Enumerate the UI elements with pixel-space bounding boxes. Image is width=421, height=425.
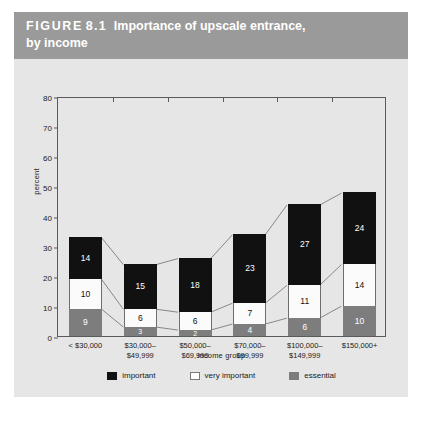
bar-segment-value: 14: [355, 281, 364, 290]
legend-swatch-essential: [289, 372, 299, 380]
bar-segment-important: 27: [288, 204, 321, 285]
bar-segment-important: 15: [124, 264, 157, 309]
bar-segment-value: 7: [248, 309, 253, 318]
x-tick-label-line: < $30,000: [69, 341, 103, 351]
bar-segment-essential: 9: [69, 309, 102, 336]
bar-segment-value: 6: [138, 314, 143, 323]
y-tick-mark: [54, 218, 58, 219]
y-axis-label: percent: [32, 152, 41, 212]
bar-segment-very-important: 6: [179, 312, 212, 330]
x-tick-label-line: $70,000–: [234, 341, 265, 351]
bar-segment-very-important: 14: [343, 264, 376, 306]
x-tick-mark: [332, 98, 333, 102]
stacked-bar: 27116: [288, 204, 321, 336]
bar-segment-essential: 6: [288, 318, 321, 336]
bar-segment-very-important: 6: [124, 309, 157, 327]
stacked-bar: 1563: [124, 264, 157, 336]
legend-item[interactable]: very important: [190, 371, 256, 380]
bar-segment-essential: 4: [233, 324, 266, 336]
bar-segment-value: 24: [355, 224, 364, 233]
figure-title-line-1: FIGURE8.1Importance of upscale entrance,: [26, 18, 396, 35]
bar-segment-essential: 3: [124, 327, 157, 336]
bar-segment-important: 23: [233, 234, 266, 303]
bar-segment-important: 14: [69, 237, 102, 279]
x-tick-mark: [113, 98, 114, 102]
y-tick-mark: [54, 188, 58, 189]
figure-number: 8.1: [83, 19, 107, 33]
x-tick-label: $150,000+: [342, 336, 378, 351]
stack-connector-lines: [58, 98, 385, 336]
bar-segment-important: 24: [343, 192, 376, 264]
bar-segment-value: 23: [245, 264, 254, 273]
legend-label: very important: [205, 371, 256, 380]
bar-segment-value: 10: [81, 290, 90, 299]
y-tick-mark: [54, 278, 58, 279]
stacked-bar: 241410: [343, 192, 376, 336]
bar-segment-value: 15: [136, 282, 145, 291]
stacked-bar: 14109: [69, 237, 102, 336]
y-tick-mark: [54, 308, 58, 309]
x-tick-label-line: $100,000–: [287, 341, 322, 351]
bar-segment-value: 11: [300, 297, 309, 306]
bar-segment-value: 14: [81, 254, 90, 263]
bar-segment-value: 9: [83, 318, 88, 327]
legend-swatch-very: [190, 372, 200, 380]
legend-label: important: [122, 371, 155, 380]
x-tick-label-line: $50,000–: [179, 341, 210, 351]
figure-title-text: Importance of upscale entrance,: [107, 19, 306, 33]
bar-segment-very-important: 11: [288, 285, 321, 318]
bar-segment-very-important: 10: [69, 279, 102, 309]
y-tick-mark: [54, 98, 58, 99]
x-tick-mark: [223, 98, 224, 102]
stacked-bar: 2374: [233, 234, 266, 336]
plot-frame: 01020304050607080 1410915631862237427116…: [57, 97, 386, 337]
x-tick-mark: [168, 98, 169, 102]
x-tick-label-line: $30,000–: [125, 341, 156, 351]
y-tick-mark: [54, 248, 58, 249]
plot-area: percent 01020304050607080 14109156318622…: [14, 59, 408, 397]
y-tick-mark: [54, 338, 58, 339]
bar-segment-value: 6: [193, 317, 198, 326]
figure-header: FIGURE8.1Importance of upscale entrance,…: [14, 12, 408, 59]
bar-segment-value: 6: [302, 323, 307, 332]
x-tick-label: < $30,000: [69, 336, 103, 351]
y-tick-mark: [54, 158, 58, 159]
figure-label-word: FIGURE: [26, 19, 83, 33]
bar-segment-very-important: 7: [233, 303, 266, 324]
bar-segment-value: 4: [248, 326, 253, 335]
figure-title-line-2: by income: [26, 35, 396, 52]
bar-segment-value: 18: [190, 281, 199, 290]
figure-box: FIGURE8.1Importance of upscale entrance,…: [14, 12, 408, 397]
legend-item[interactable]: essential: [289, 371, 336, 380]
x-tick-label-line: $150,000+: [342, 341, 378, 351]
x-tick-mark: [277, 98, 278, 102]
bar-segment-important: 18: [179, 258, 212, 312]
bar-segment-value: 10: [355, 317, 364, 326]
legend-item[interactable]: important: [107, 371, 155, 380]
y-tick-mark: [54, 128, 58, 129]
stacked-bar: 1862: [179, 258, 212, 336]
legend-label: essential: [304, 371, 336, 380]
x-axis-label: income group: [57, 351, 386, 360]
bar-segment-value: 3: [138, 328, 142, 335]
bar-segment-value: 27: [300, 240, 309, 249]
chart-legend: importantvery importantessential: [57, 371, 386, 380]
legend-swatch-important: [107, 372, 117, 380]
bar-segment-essential: 10: [343, 306, 376, 336]
